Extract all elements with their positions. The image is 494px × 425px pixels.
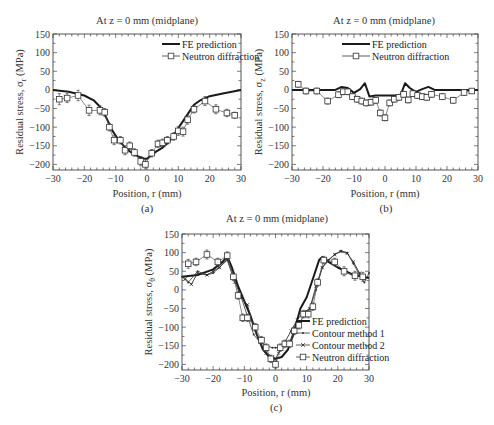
legend-item: FE prediction [162,39,237,50]
data-point [235,293,241,299]
x-tick-label: −30 [284,173,300,184]
y-axis-label-main: Residual stress, σ [253,81,264,155]
data-point [56,96,62,102]
data-point [259,337,265,343]
data-point [303,88,309,94]
data-point [231,274,237,280]
data-point [263,345,269,351]
x-axis-label: Position, r (mm) [350,188,420,200]
series-line [59,96,234,165]
chart-title: At z = 0 mm (midplane) [333,15,435,27]
y-tick-label: −200 [268,159,289,170]
y-axis-label: Residual stress, σz (MPa) [253,48,267,155]
y-tick-label: −150 [29,140,50,151]
y-axis-label-main: Residual stress, σ [143,282,154,356]
y-tick-label: 150 [274,29,289,40]
legend-label: FE prediction [312,316,367,327]
data-point [429,92,435,98]
data-point [143,162,149,168]
y-axis-label: Residual stress, σθ (MPa) [143,248,157,355]
y-tick-label: 100 [35,47,50,58]
data-point [213,106,219,112]
y-tick-label: 100 [164,247,179,258]
x-tick-label: 30 [364,373,374,384]
data-point [363,281,365,283]
chart-title: At z = 0 mm (midplane) [96,15,198,27]
legend-item: Neutron diffraction [296,352,389,363]
x-tick-label: 20 [442,173,452,184]
y-axis-label-unit: (MPa) [143,248,155,278]
y-tick-label: 0 [284,84,289,95]
y-axis-label-unit: (MPa) [253,48,265,78]
data-point [382,115,388,121]
data-point [149,150,155,156]
y-tick-label: 0 [174,284,179,295]
legend-marker [302,332,304,334]
data-point [360,274,366,280]
x-tick-label: −30 [45,173,61,184]
data-point [107,124,113,130]
y-tick-label: −100 [158,322,179,333]
data-point [202,98,208,104]
data-point [224,110,230,116]
data-point [315,280,321,286]
legend-label: Contour method 2 [312,340,385,351]
data-point [252,324,258,330]
legend-label: FE prediction [182,39,237,50]
data-point [295,82,301,88]
data-point [296,322,302,328]
y-tick-label: −50 [163,303,179,314]
x-tick-label: 10 [411,173,421,184]
panel-caption: (c) [270,401,283,414]
data-point [373,98,379,104]
legend-label: Neutron diffraction [182,51,259,62]
data-point [75,93,81,99]
data-point [332,259,338,265]
series-neutron-diffraction [295,81,474,120]
data-point [215,259,221,265]
data-point [368,272,370,274]
data-point [325,98,331,104]
data-point [401,92,407,98]
x-tick-label: 30 [236,173,246,184]
figure: At z = 0 mm (midplane) −30−20−1001020301… [0,0,494,425]
x-tick-label: −20 [315,173,331,184]
y-tick-label: 150 [164,229,179,240]
data-point [64,95,70,101]
y-tick-label: −50 [273,103,289,114]
data-point [333,253,336,256]
data-point [191,106,197,112]
data-point [275,347,277,349]
data-point [118,137,124,143]
data-point [287,341,293,347]
x-tick-label: −10 [346,173,362,184]
y-tick-label: −150 [158,340,179,351]
data-point [352,273,358,279]
legend-marker [300,354,306,360]
y-axis-label-unit: (MPa) [14,49,26,79]
legend-label: Neutron diffraction [372,51,449,62]
data-point [253,334,255,336]
y-tick-label: −200 [158,359,179,370]
legend-item: FE prediction [342,39,427,50]
legend-item: Contour method 1 [296,328,385,339]
y-tick-label: 50 [169,266,179,277]
data-point [305,311,311,317]
y-tick-label: 100 [274,47,289,58]
data-point [405,97,411,103]
data-point [111,137,117,143]
data-point [165,137,171,143]
y-tick-label: 50 [40,66,50,77]
panel-caption: (a) [141,202,154,215]
data-point [171,134,177,140]
y-tick-label: −100 [29,122,50,133]
data-point [321,257,327,263]
y-axis-label: Residual stress, σr (MPa) [14,49,28,155]
panel-b: At z = 0 mm (midplane) −30−20−1001020301… [253,15,483,215]
data-point [271,347,273,349]
legend-item: Neutron diffraction [342,51,449,62]
legend-item: Neutron diffraction [162,51,259,62]
x-tick-label: −20 [77,173,93,184]
data-point [181,276,183,278]
data-point [450,98,456,104]
